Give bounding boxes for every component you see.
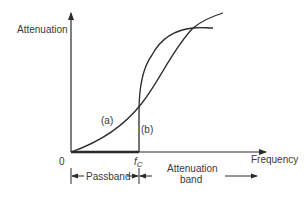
attenuation-band-label-line2: band <box>180 174 202 185</box>
y-axis-label: Attenuation <box>17 24 68 35</box>
origin-label: 0 <box>59 156 65 167</box>
attenuation-band-label-line1: Attenuation <box>167 163 218 174</box>
cutoff-frequency-label: fC <box>134 156 143 169</box>
x-axis-label: Frequency <box>251 154 298 165</box>
curve-a-label: (a) <box>101 115 113 126</box>
passband-label: Passband <box>86 171 130 182</box>
curve-b-label: (b) <box>141 124 153 135</box>
attenuation-diagram: Attenuation Frequency 0 fC (a) (b) Passb… <box>0 0 308 197</box>
